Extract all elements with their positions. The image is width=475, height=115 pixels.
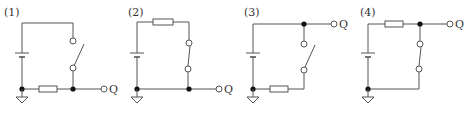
junction-dot bbox=[301, 21, 306, 26]
wire bbox=[137, 22, 189, 89]
resistor-icon bbox=[270, 86, 288, 92]
switch-open-icon bbox=[301, 41, 315, 73]
circuit-label: (3) bbox=[244, 6, 260, 19]
battery-icon bbox=[15, 53, 29, 57]
ground-icon bbox=[131, 97, 143, 103]
circuit-2: (2) Q bbox=[128, 6, 233, 103]
wire bbox=[253, 24, 331, 89]
circuit-3: (3) Q bbox=[244, 6, 348, 103]
battery-icon bbox=[130, 53, 144, 57]
output-terminal bbox=[331, 21, 337, 27]
switch-closed-icon bbox=[416, 41, 423, 72]
output-label: Q bbox=[339, 18, 348, 31]
ground-icon bbox=[362, 97, 374, 103]
circuit-label: (2) bbox=[128, 6, 144, 19]
ground-icon bbox=[247, 97, 259, 103]
output-label: Q bbox=[224, 83, 233, 96]
resistor-icon bbox=[153, 19, 173, 25]
ground-icon bbox=[16, 97, 28, 103]
wire bbox=[368, 24, 447, 89]
circuit-4: (4) Q bbox=[360, 6, 464, 103]
junction-dot bbox=[417, 21, 422, 26]
output-terminal bbox=[216, 86, 222, 92]
output-label: Q bbox=[109, 83, 118, 96]
battery-icon bbox=[361, 53, 375, 57]
junction-dot bbox=[186, 86, 191, 91]
junction-dot bbox=[70, 86, 75, 91]
output-terminal bbox=[101, 86, 107, 92]
output-label: Q bbox=[455, 18, 464, 31]
battery-icon bbox=[246, 53, 260, 57]
circuit-label: (1) bbox=[4, 6, 20, 19]
wire bbox=[22, 23, 73, 89]
switch-closed-icon bbox=[185, 40, 192, 72]
resistor-icon bbox=[39, 86, 57, 92]
resistor-icon bbox=[385, 21, 403, 27]
circuit-label: (4) bbox=[360, 6, 376, 19]
switch-open-icon bbox=[70, 38, 84, 71]
circuit-1: (1) Q bbox=[4, 6, 118, 103]
output-terminal bbox=[447, 21, 453, 27]
wire bbox=[368, 72, 419, 89]
